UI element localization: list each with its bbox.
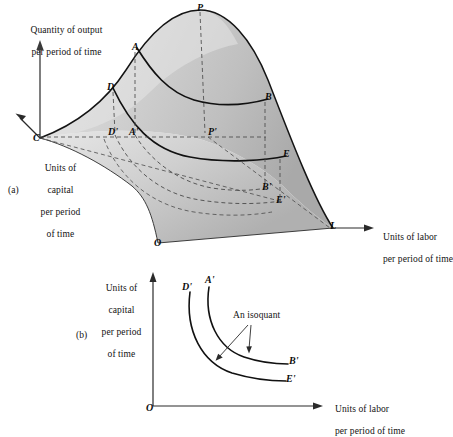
panel-b-capital-axis-label-line2: capital xyxy=(108,305,134,315)
annotation-arrow-to-upper-isoquant xyxy=(249,325,251,349)
panel-a-output-axis-label: Quantity of output per period of time xyxy=(4,14,124,58)
panel-a-capital-axis-label: Units of capital per period of time xyxy=(18,152,98,240)
panel-a-output-axis-label-line2: per period of time xyxy=(31,47,101,57)
panel-b-labor-axis-label-line1: Units of labor xyxy=(335,404,389,414)
panel-a-capital-axis-label-line4: of time xyxy=(47,229,75,239)
panel-a-point-P: P xyxy=(197,2,203,13)
panel-a-point-Pprime: P' xyxy=(208,126,217,137)
panel-b-point-Dprime: D' xyxy=(182,281,192,292)
panel-a-labor-axis-label-line2: per period of time xyxy=(383,254,453,264)
panel-a-point-B: B xyxy=(265,91,272,102)
panel-a-point-Eprime: E' xyxy=(276,194,285,205)
panel-b-isoquant-annotation: An isoquant xyxy=(233,310,280,321)
panel-b-capital-axis-arrow xyxy=(150,272,157,282)
panel-a-point-L: L xyxy=(330,220,336,231)
panel-a-point-E: E xyxy=(283,148,290,159)
panel-a-point-Aprime: A' xyxy=(129,126,138,137)
panel-b-point-Bprime: B' xyxy=(289,355,298,366)
panel-a-point-Dprime: D' xyxy=(108,126,118,137)
panel-a-labor-axis-arrow xyxy=(364,225,374,232)
panel-b-labor-axis-label: Units of labor per period of time xyxy=(330,393,435,437)
panel-a-capital-axis-label-line1: Units of xyxy=(45,163,77,173)
panel-b-group xyxy=(150,272,324,409)
panel-a-capital-axis-label-line2: capital xyxy=(47,185,73,195)
panel-a-point-A: A xyxy=(132,41,139,52)
panel-b-capital-axis-label-line1: Units of xyxy=(106,283,138,293)
panel-b-point-O: O xyxy=(146,402,153,413)
panel-a-point-C: C xyxy=(33,132,40,143)
panel-b-labor-axis-arrow xyxy=(313,403,323,410)
panel-a-labor-axis-label-line1: Units of labor xyxy=(383,232,437,242)
panel-b-capital-axis-label: Units of capital per period of time xyxy=(88,272,150,360)
panel-b-capital-axis-label-line3: per period xyxy=(102,327,142,337)
panel-b-tag: (b) xyxy=(76,330,87,340)
panel-b-capital-axis-label-line4: of time xyxy=(108,349,136,359)
panel-b-labor-axis-label-line2: per period of time xyxy=(335,426,405,436)
panel-b-point-Eprime: E' xyxy=(286,373,295,384)
panel-a-tag: (a) xyxy=(8,185,19,195)
panel-a-labor-axis-label: Units of labor per period of time xyxy=(378,221,445,265)
panel-a-output-axis-label-line1: Quantity of output xyxy=(30,25,102,35)
panel-a-point-Bprime: B' xyxy=(262,181,271,192)
panel-b-point-Aprime: A' xyxy=(205,274,214,285)
panel-a-point-D: D xyxy=(107,81,114,92)
annotation-arrowhead-lower xyxy=(216,354,223,361)
panel-a-capital-axis-label-line3: per period xyxy=(41,207,81,217)
panel-a-point-O: O xyxy=(154,237,161,248)
annotation-arrowhead-upper xyxy=(246,346,252,353)
